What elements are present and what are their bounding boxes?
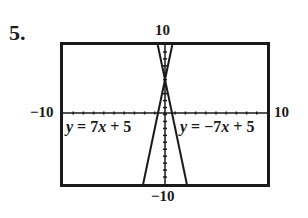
graph-line-2 xyxy=(158,45,187,184)
graph-window xyxy=(0,0,308,218)
equation-label-1: y = 7x + 5 xyxy=(66,118,131,136)
graph-line-1 xyxy=(143,45,172,184)
equation-label-2: y = −7x + 5 xyxy=(180,118,254,136)
